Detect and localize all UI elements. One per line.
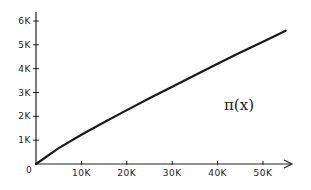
x-tick-label: 50K xyxy=(254,168,273,178)
x-tick-label: 40K xyxy=(208,168,227,178)
function-label: π(x) xyxy=(224,96,254,114)
x-tick-label: 20K xyxy=(117,168,136,178)
y-tick-label: 1K xyxy=(18,135,31,145)
y-tick-label: 2K xyxy=(18,111,31,121)
x-tick-label: 30K xyxy=(163,168,182,178)
y-tick-label: 4K xyxy=(18,64,31,74)
x-axis: 10K20K30K40K50K xyxy=(35,160,292,178)
y-tick-label: 3K xyxy=(18,88,31,98)
y-axis: 1K2K3K4K5K6K xyxy=(18,12,39,165)
y-tick-label: 5K xyxy=(18,40,31,50)
origin-label: 0 xyxy=(26,165,32,175)
prime-counting-chart: 1K2K3K4K5K6K 10K20K30K40K50K π(x) 0 xyxy=(0,0,311,190)
y-tick-label: 6K xyxy=(18,16,31,26)
x-tick-label: 10K xyxy=(72,168,91,178)
